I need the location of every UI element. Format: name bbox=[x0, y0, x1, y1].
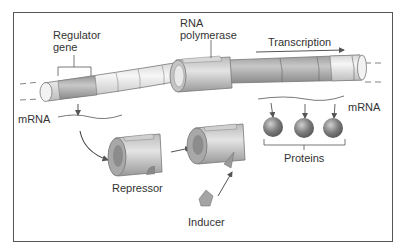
proteins-label: Proteins bbox=[284, 152, 324, 164]
regulator-gene-label-line2: gene bbox=[53, 41, 101, 53]
rna-polymerase-label: RNA polymerase bbox=[180, 17, 237, 41]
mrna-to-repressor-arrow bbox=[80, 131, 108, 160]
regulator-gene-label-line1: Regulator bbox=[53, 29, 101, 41]
proteins-bracket bbox=[264, 139, 345, 150]
inducer-arrow bbox=[218, 172, 232, 196]
repressor-shape bbox=[108, 134, 162, 176]
repressor-label: Repressor bbox=[112, 182, 163, 194]
transcription-label: Transcription bbox=[268, 36, 331, 48]
mrna-right-strand bbox=[258, 96, 344, 100]
proteins-shapes bbox=[263, 117, 343, 138]
rna-polymerase-label-line2: polymerase bbox=[180, 29, 237, 41]
inducer-shape bbox=[199, 190, 213, 206]
mrna-left-label: mRNA bbox=[18, 113, 50, 125]
repressor-inducer-complex-shape bbox=[187, 124, 245, 168]
rna-polymerase-label-line1: RNA bbox=[180, 17, 237, 29]
mrna-right-label: mRNA bbox=[348, 101, 380, 113]
rna-polymerase-shape bbox=[170, 56, 232, 92]
inducer-label: Inducer bbox=[188, 216, 225, 228]
mrna-left-strand bbox=[58, 115, 122, 119]
protein-arrows bbox=[271, 103, 335, 118]
transcription-arrow bbox=[256, 50, 344, 52]
regulator-gene-bracket bbox=[58, 55, 91, 76]
regulator-gene-label: Regulator gene bbox=[53, 29, 101, 53]
